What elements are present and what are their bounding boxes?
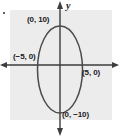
point-label-right-covertex: (5, 0) [82,68,100,77]
x-axis-right-arrowhead [112,62,119,68]
point-label-left-covertex: (−5, 0) [13,52,36,61]
ellipse-figure: (0, 10) (−5, 0) (5, 0) (0, −10) y [0,0,119,136]
point-label-bottom-vertex: (0, −10) [62,110,89,119]
y-axis-label: y [66,1,70,11]
x-axis-left-arrowhead [0,62,7,68]
point-label-top-vertex: (0, 10) [27,15,49,24]
coordinate-plane-graphic [0,0,119,136]
y-axis-bottom-arrowhead [57,128,63,136]
y-axis-top-arrowhead [57,1,63,9]
